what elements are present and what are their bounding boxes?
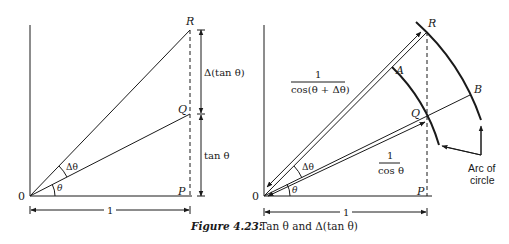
right-origin-label: 0 bbox=[252, 190, 259, 203]
left-point-P: P bbox=[177, 185, 186, 198]
left-base-label: 1 bbox=[107, 205, 113, 216]
short-label-denominator: cos θ bbox=[378, 165, 404, 176]
figure-caption-text: Tan θ and Δ(tan θ) bbox=[260, 220, 358, 232]
right-point-R: R bbox=[427, 17, 436, 30]
inner-arc bbox=[392, 67, 439, 145]
left-point-Q: Q bbox=[178, 103, 187, 116]
right-long-radius-arrow bbox=[267, 32, 421, 187]
right-point-B: B bbox=[473, 83, 482, 96]
figure-canvas: 0 R Q P θ Δθ Δ(tan θ) tan θ 1 bbox=[0, 0, 509, 244]
short-label-numerator: 1 bbox=[387, 150, 393, 161]
left-dim-lower-label: tan θ bbox=[204, 150, 230, 161]
right-line-OB bbox=[264, 95, 470, 196]
arc-label-line2: circle bbox=[470, 174, 495, 186]
left-angle-delta-theta: Δθ bbox=[66, 162, 78, 172]
right-point-P: P bbox=[416, 185, 425, 198]
left-origin-label: 0 bbox=[18, 190, 25, 203]
long-label-denominator: cos(θ + Δθ) bbox=[291, 84, 350, 95]
left-dim-upper-label: Δ(tan θ) bbox=[204, 67, 245, 78]
left-theta-arc bbox=[52, 185, 55, 196]
left-angle-theta: θ bbox=[57, 183, 63, 193]
right-angle-theta: θ bbox=[292, 185, 298, 195]
arc-pointer-inner bbox=[442, 146, 481, 155]
long-label-numerator: 1 bbox=[315, 69, 321, 80]
left-line-OQ bbox=[30, 114, 190, 196]
right-delta-theta-arc bbox=[294, 166, 302, 178]
right-point-A: A bbox=[395, 64, 404, 77]
arc-label-line1: Arc of bbox=[468, 162, 496, 174]
right-point-Q: Q bbox=[411, 107, 420, 120]
left-line-OR bbox=[30, 30, 190, 196]
left-point-R: R bbox=[185, 15, 194, 28]
figure-caption-label: Figure 4.23: bbox=[190, 220, 263, 232]
right-base-label: 1 bbox=[343, 207, 349, 218]
right-angle-delta-theta: Δθ bbox=[302, 162, 314, 172]
